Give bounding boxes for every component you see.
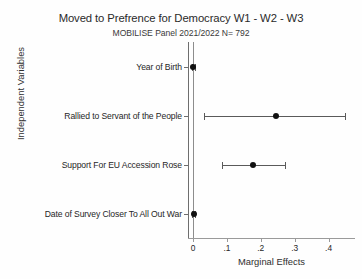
y-axis-tick [184, 67, 188, 68]
estimate-point [190, 64, 196, 70]
y-axis-tick-label: Year of Birth [136, 62, 182, 72]
x-axis-tick-label: .3 [291, 243, 298, 253]
estimate-point [191, 211, 197, 217]
ci-cap-low [204, 113, 205, 120]
ci-cap-low [222, 162, 223, 169]
x-axis-tick-label: .1 [223, 243, 230, 253]
chart-subtitle: MOBILISE Panel 2021/2022 N= 792 [0, 28, 362, 38]
plot-area: Year of BirthRallied to Servant of the P… [188, 42, 355, 238]
y-axis-tick-label: Rallied to Servant of the People [64, 111, 182, 121]
estimate-point [273, 113, 279, 119]
chart-title: Moved to Prefrence for Democracy W1 - W2… [0, 12, 362, 24]
ci-cap-high [285, 162, 286, 169]
y-axis-tick-label: Support For EU Accession Rose [62, 160, 182, 170]
ci-cap-high [345, 113, 346, 120]
y-axis-tick [184, 214, 188, 215]
x-axis-tick-label: .2 [257, 243, 264, 253]
x-axis-tick [329, 238, 330, 242]
x-axis-tick [193, 238, 194, 242]
coefficient-plot-figure: Moved to Prefrence for Democracy W1 - W2… [0, 0, 362, 279]
x-axis-tick [295, 238, 296, 242]
y-axis-tick [184, 116, 188, 117]
y-axis-tick [184, 165, 188, 166]
x-axis-title: Marginal Effects [188, 256, 355, 267]
x-axis-line [188, 238, 355, 239]
x-axis-tick [261, 238, 262, 242]
y-axis-tick-label: Date of Survey Closer To All Out War [45, 209, 182, 219]
x-axis-tick [227, 238, 228, 242]
y-axis-title: Independent Variables [15, 4, 26, 184]
x-axis-tick-label: .4 [325, 243, 332, 253]
estimate-point [250, 162, 256, 168]
x-axis-tick-label: 0 [191, 243, 196, 253]
